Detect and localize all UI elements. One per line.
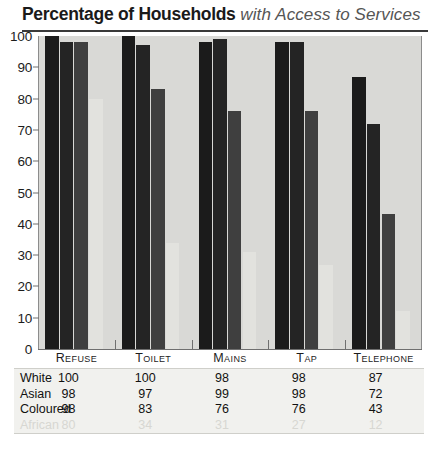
y-axis-tick-label: 20 [17, 279, 32, 294]
table-cell: 31 [202, 418, 242, 432]
table-row: Coloured9883767643 [14, 402, 424, 417]
table-row: Asian9897999872 [14, 387, 424, 402]
bar [136, 45, 150, 349]
table-cell: 83 [125, 402, 165, 416]
bar [352, 77, 366, 349]
table-cell: 76 [279, 402, 319, 416]
table-cell: 27 [279, 418, 319, 432]
y-axis-tick-label: 60 [17, 154, 32, 169]
y-axis-tick-label: 100 [10, 29, 32, 44]
bar [60, 42, 74, 349]
x-axis-label-mains: Mains [192, 351, 269, 365]
table-cell: 76 [202, 402, 242, 416]
bar [275, 42, 289, 349]
x-axis-group-separator [345, 340, 346, 349]
x-axis-label-refuse: Refuse [38, 351, 115, 365]
bar-group [268, 36, 345, 349]
table-cell: 98 [279, 387, 319, 401]
chart-title-main: Percentage of Households [22, 4, 236, 24]
bar [228, 111, 242, 349]
bar [89, 99, 103, 349]
bar-group [345, 36, 422, 349]
table-cell: 98 [48, 387, 88, 401]
data-table: White100100989887Asian9897999872Coloured… [14, 368, 424, 434]
x-axis-labels: RefuseToiletMainsTapTelephone [38, 351, 422, 368]
chart-title-subtitle: with Access to Services [236, 5, 421, 24]
y-axis-tick-label: 40 [17, 216, 32, 231]
bar [213, 39, 227, 349]
table-cell: 43 [356, 402, 396, 416]
x-axis-label-telephone: Telephone [345, 351, 422, 365]
bar [151, 89, 165, 349]
bar [122, 36, 136, 349]
bar [382, 214, 396, 349]
y-axis-tick-label: 30 [17, 248, 32, 263]
bar-group [115, 36, 192, 349]
bar-group [38, 36, 115, 349]
bar [319, 265, 333, 350]
bar-group [192, 36, 269, 349]
x-axis-line [38, 349, 422, 350]
table-cell: 98 [279, 371, 319, 385]
x-axis-label-toilet: Toilet [115, 351, 192, 365]
table-row-label: White [20, 371, 52, 385]
bar [199, 42, 213, 349]
bar [243, 252, 257, 349]
bar [166, 243, 180, 349]
y-axis-tick-label: 90 [17, 60, 32, 75]
x-axis-group-separator [192, 340, 193, 349]
table-cell: 87 [356, 371, 396, 385]
table-cell: 99 [202, 387, 242, 401]
table-cell: 98 [202, 371, 242, 385]
y-axis-tick-label: 70 [17, 122, 32, 137]
y-axis-tick-label: 50 [17, 185, 32, 200]
y-axis-tick-label: 10 [17, 310, 32, 325]
table-cell: 12 [356, 418, 396, 432]
table-cell: 80 [48, 418, 88, 432]
x-axis-label-tap: Tap [268, 351, 345, 365]
bar [305, 111, 319, 349]
table-cell: 100 [48, 371, 88, 385]
bar [45, 36, 59, 349]
table-cell: 97 [125, 387, 165, 401]
bar [290, 42, 304, 349]
bar [74, 42, 88, 349]
x-axis-group-separator [115, 340, 116, 349]
table-cell: 72 [356, 387, 396, 401]
table-row: White100100989887 [14, 371, 424, 386]
x-axis-group-separator [268, 340, 269, 349]
bar [396, 311, 410, 349]
table-cell: 100 [125, 371, 165, 385]
table-row-label: Asian [20, 387, 51, 401]
chart-title: Percentage of Households with Access to … [22, 4, 428, 32]
chart-figure: Percentage of Households with Access to … [0, 0, 440, 454]
bar [367, 124, 381, 349]
y-axis: 0102030405060708090100 [0, 28, 38, 358]
table-cell: 34 [125, 418, 165, 432]
y-axis-tick-label: 80 [17, 91, 32, 106]
y-axis-tick-label: 0 [25, 342, 32, 357]
table-row: African8034312712 [14, 418, 424, 433]
table-cell: 98 [48, 402, 88, 416]
